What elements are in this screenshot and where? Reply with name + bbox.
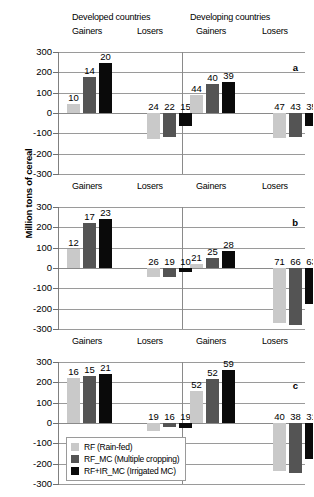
y-tick-label-100: 100 (12, 243, 52, 253)
legend: RF (Rain-fed)RF_MC (Multiple cropping)RF… (66, 437, 186, 481)
y-tick--200 (53, 464, 59, 465)
bar-c-g0-s0 (67, 378, 80, 423)
y-tick-label-100: 100 (12, 398, 52, 408)
bar-a-g2-s0 (190, 95, 203, 113)
y-tick--200 (53, 309, 59, 310)
panel-letter-b: b (292, 217, 298, 228)
bar-b-g1-s1 (163, 268, 176, 277)
y-tick-300 (53, 207, 59, 208)
bar-a-g3-s0 (273, 113, 286, 138)
bar-a-g0-s2 (99, 63, 112, 113)
sub-header-gainers-2: Gainers (196, 181, 226, 191)
y-tick-100 (53, 403, 59, 404)
bar-c-g1-s2 (179, 423, 192, 428)
y-tick-label--200: -200 (12, 149, 52, 159)
figure-root: Developed countries Developing countries… (0, 0, 313, 497)
bar-b-g1-s0 (147, 268, 160, 277)
bar-a-g2-s1 (206, 84, 219, 113)
sub-header-losers-3: Losers (262, 336, 288, 346)
bar-a-g1-s1 (163, 113, 176, 137)
y-tick-200 (53, 382, 59, 383)
y-tick-label--100: -100 (12, 129, 52, 139)
y-tick--100 (53, 288, 59, 289)
plot-area-a: 3002001000-100-200-300101420242215444039… (58, 52, 305, 174)
y-tick--100 (53, 133, 59, 134)
bar-c-g2-s1 (206, 379, 219, 423)
y-tick-100 (53, 248, 59, 249)
y-tick-300 (53, 362, 59, 363)
y-tick-200 (53, 227, 59, 228)
bar-c-g0-s1 (83, 376, 96, 423)
bar-label-c-g0-s2: 21 (93, 363, 119, 373)
legend-swatch-0 (71, 443, 79, 451)
y-tick-label--100: -100 (12, 439, 52, 449)
y-tick-label-0: 0 (12, 263, 52, 273)
y-tick-100 (53, 93, 59, 94)
y-tick-label-100: 100 (12, 88, 52, 98)
y-tick-label-300: 300 (12, 202, 52, 212)
y-tick--200 (53, 154, 59, 155)
legend-label-2: RF+IR_MC (Irrigated MC) (84, 466, 176, 476)
bar-b-g3-s2 (305, 268, 313, 304)
legend-item-2: RF+IR_MC (Irrigated MC) (71, 465, 179, 477)
sub-header-gainers-0: Gainers (72, 336, 102, 346)
sub-header-gainers-2: Gainers (196, 26, 226, 36)
group-header-developed: Developed countries (72, 12, 150, 22)
bar-label-b-g0-s2: 23 (93, 208, 119, 218)
bar-c-g3-s0 (273, 423, 286, 471)
y-tick--300 (53, 484, 59, 485)
bar-b-g3-s0 (273, 268, 286, 323)
y-tick-label-200: 200 (12, 68, 52, 78)
y-tick-label-0: 0 (12, 418, 52, 428)
bar-c-g3-s1 (289, 423, 302, 473)
sub-header-losers-3: Losers (262, 26, 288, 36)
sub-header-gainers-2: Gainers (196, 336, 226, 346)
bar-b-g2-s2 (222, 251, 235, 268)
y-tick-label--100: -100 (12, 284, 52, 294)
bar-a-g0-s1 (83, 77, 96, 113)
bar-c-g1-s1 (163, 423, 176, 427)
legend-swatch-2 (71, 467, 79, 475)
sub-header-losers-1: Losers (137, 26, 163, 36)
y-tick-label--300: -300 (12, 324, 52, 334)
legend-item-1: RF_MC (Multiple cropping) (71, 453, 179, 465)
bar-c-g3-s2 (305, 423, 313, 459)
bar-c-g0-s2 (99, 374, 112, 423)
legend-label-0: RF (Rain-fed) (84, 442, 132, 452)
bar-a-g0-s0 (67, 104, 80, 113)
y-tick-label-300: 300 (12, 47, 52, 57)
sub-header-losers-1: Losers (137, 336, 163, 346)
y-tick-0 (53, 268, 59, 269)
legend-label-1: RF_MC (Multiple cropping) (84, 454, 179, 464)
y-tick-200 (53, 72, 59, 73)
bar-label-a-g2-s2: 39 (216, 71, 242, 81)
group-header-developing: Developing countries (190, 12, 270, 22)
gridline--300 (59, 484, 305, 485)
y-tick-label--300: -300 (12, 169, 52, 179)
y-tick-label-200: 200 (12, 223, 52, 233)
bar-label-a-g0-s2: 20 (93, 52, 119, 62)
bar-b-g2-s0 (190, 264, 203, 268)
y-tick-label-300: 300 (12, 357, 52, 367)
gridline--300 (59, 174, 305, 175)
y-tick-label--200: -200 (12, 304, 52, 314)
y-tick-label-200: 200 (12, 378, 52, 388)
legend-swatch-1 (71, 455, 79, 463)
y-tick--300 (53, 329, 59, 330)
sub-header-losers-1: Losers (137, 181, 163, 191)
bar-label-b-g2-s2: 28 (216, 240, 242, 250)
bar-a-g3-s2 (305, 113, 313, 126)
bar-c-g1-s0 (147, 423, 160, 431)
bar-b-g0-s2 (99, 219, 112, 268)
panel-letter-a: a (293, 62, 298, 73)
bar-a-g1-s0 (147, 113, 160, 139)
sub-header-gainers-0: Gainers (72, 26, 102, 36)
sub-header-gainers-0: Gainers (72, 181, 102, 191)
y-tick--300 (53, 174, 59, 175)
y-tick-label--200: -200 (12, 459, 52, 469)
bar-label-c-g2-s2: 59 (216, 359, 242, 369)
bar-b-g0-s1 (83, 223, 96, 268)
y-tick-300 (53, 52, 59, 53)
bar-label-b-g3-s2: 63 (299, 257, 314, 267)
bar-label-c-g3-s2: 31 (299, 412, 314, 422)
